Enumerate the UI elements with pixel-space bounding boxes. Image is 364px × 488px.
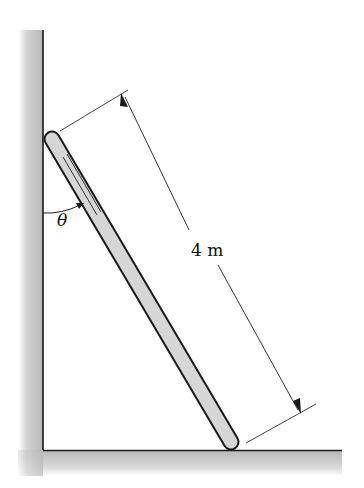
ladder-diagram	[0, 0, 364, 488]
length-dimension-label: 4 m	[189, 240, 225, 260]
ladder	[52, 139, 231, 442]
angle-theta-label: θ	[57, 210, 67, 230]
dimension-line	[60, 90, 316, 443]
floor	[18, 450, 342, 476]
arrowhead-icon	[293, 398, 301, 414]
wall	[18, 30, 43, 451]
